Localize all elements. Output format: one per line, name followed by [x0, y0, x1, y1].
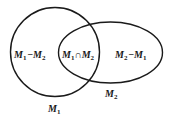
set-m2-label: M2 — [104, 88, 118, 101]
set-m1-label: M1 — [47, 103, 61, 116]
region-intersection-label: M1∩M2 — [61, 49, 95, 62]
region-m1-minus-m2-label: M1−M2 — [13, 49, 46, 62]
venn-diagram: M1−M2 M1∩M2 M2−M1 M2 M1 — [0, 0, 172, 121]
region-m2-minus-m1-label: M2−M1 — [114, 49, 147, 62]
